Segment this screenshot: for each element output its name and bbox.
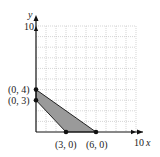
point-3-0 — [64, 130, 69, 135]
point-6-0 — [94, 130, 99, 135]
label-0-3: (0, 3) — [8, 95, 30, 107]
x-max-label: 10 — [134, 137, 144, 148]
chart: y 10 10 x (0, 4) (0, 3) (3, 0) (6, 0) — [0, 0, 160, 157]
label-6-0: (6, 0) — [86, 139, 108, 151]
x-axis-arrow-icon — [137, 130, 143, 135]
x-axis-label: x — [145, 137, 151, 148]
x-tick-arrow-icon — [131, 130, 136, 134]
y-max-label: 10 — [24, 21, 34, 32]
point-0-4 — [34, 87, 39, 92]
y-axis-label: y — [27, 9, 33, 20]
y-tick-arrow-icon — [34, 26, 38, 31]
y-axis-arrow-icon — [34, 15, 39, 21]
point-0-3 — [34, 98, 39, 103]
label-3-0: (3, 0) — [55, 139, 77, 151]
